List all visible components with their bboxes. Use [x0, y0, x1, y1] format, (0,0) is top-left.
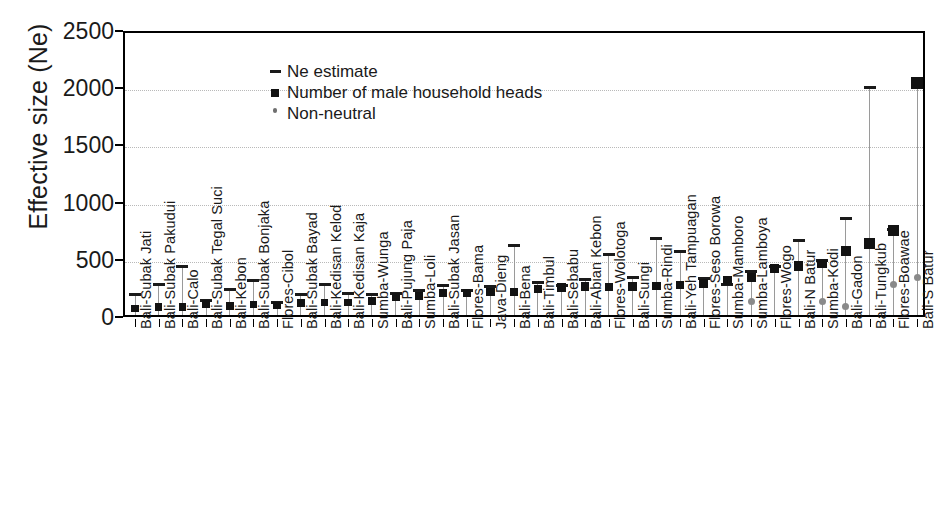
- y-tick-mark: [115, 144, 123, 146]
- x-tick-label: Bali-Yeh Tampuagan: [683, 194, 699, 329]
- whisker-line: [869, 87, 870, 315]
- x-tick-mark: [277, 319, 278, 327]
- x-tick-mark: [230, 319, 231, 327]
- whisker-line: [774, 267, 775, 315]
- x-tick-label: Bali-Sungi: [636, 262, 652, 329]
- whisker-line: [822, 260, 823, 315]
- legend-label: Ne estimate: [287, 61, 378, 82]
- gridline: [125, 205, 923, 206]
- x-tick-mark: [751, 319, 752, 327]
- x-tick-mark: [159, 319, 160, 327]
- x-tick-label: Bali-Subak Jasan: [446, 215, 462, 329]
- x-tick-label: Flores-Wolotoga: [612, 221, 628, 329]
- ne-estimate-marker: [176, 265, 188, 268]
- y-tick-mark: [115, 202, 123, 204]
- x-tick-label: Flores-Cibol: [280, 250, 296, 329]
- x-tick-mark: [846, 319, 847, 327]
- x-tick-mark: [727, 319, 728, 327]
- x-tick-mark: [562, 319, 563, 327]
- x-tick-mark: [372, 319, 373, 327]
- chart-figure: Effective size (Ne) 05001000150020002500…: [0, 0, 947, 528]
- y-tick-label: 2000: [22, 77, 114, 100]
- ne-estimate-marker: [840, 217, 852, 220]
- legend-label: Number of male household heads: [287, 82, 542, 103]
- x-tick-mark: [870, 319, 871, 327]
- male-heads-marker: [911, 77, 923, 89]
- y-tick-label: 500: [22, 248, 114, 271]
- x-tick-label: Bali-Subak Bonjaka: [256, 201, 272, 329]
- legend-item-male-heads: Number of male household heads: [265, 82, 542, 103]
- x-tick-label: Sumba-Lamboya: [754, 217, 770, 329]
- x-tick-mark: [325, 319, 326, 327]
- x-tick-label: Bali-N Batur: [802, 250, 818, 329]
- x-tick-mark: [680, 319, 681, 327]
- x-tick-mark: [467, 319, 468, 327]
- legend: Ne estimate Number of male household hea…: [265, 61, 542, 124]
- x-tick-label: Sumba-Mamboro: [730, 216, 746, 329]
- x-tick-mark: [799, 319, 800, 327]
- x-tick-mark: [633, 319, 634, 327]
- ne-estimate-marker: [864, 86, 876, 89]
- y-tick-label: 1500: [22, 134, 114, 157]
- x-tick-label: Bali-Subak Pakudui: [162, 201, 178, 329]
- x-tick-label: Bali-Sebabu: [565, 249, 581, 329]
- x-tick-label: Bali-Kebon: [233, 257, 249, 329]
- x-tick-mark: [396, 319, 397, 327]
- x-tick-label: Bali-Calo: [185, 269, 201, 329]
- x-tick-mark: [538, 319, 539, 327]
- x-tick-label: Flores-Seso Borowa: [707, 196, 723, 329]
- x-tick-label: Bali-Gadon: [849, 255, 865, 329]
- x-tick-label: Bali-Kedisan Kaja: [351, 213, 367, 329]
- x-tick-mark: [206, 319, 207, 327]
- x-tick-label: Flores-Bama: [470, 245, 486, 329]
- y-tick-mark: [115, 87, 123, 89]
- x-tick-label: Bali-Kedisan Kelod: [328, 205, 344, 329]
- x-tick-label: Flores-Wogo: [778, 245, 794, 329]
- x-tick-mark: [135, 319, 136, 327]
- x-tick-mark: [443, 319, 444, 327]
- legend-item-non-neutral: Non-neutral: [265, 103, 542, 124]
- x-tick-mark: [253, 319, 254, 327]
- x-tick-label: Java-Dieng: [493, 255, 509, 329]
- x-tick-label: Bali-Subak Jati: [138, 231, 154, 329]
- ne-estimate-marker: [508, 244, 520, 247]
- x-tick-label: Bali-Tungkub: [873, 243, 889, 329]
- x-tick-mark: [609, 319, 610, 327]
- x-tick-label: Flores-Boawae: [896, 230, 912, 329]
- y-tick-label: 1000: [22, 191, 114, 214]
- legend-item-ne-estimate: Ne estimate: [265, 61, 542, 82]
- x-tick-mark: [585, 319, 586, 327]
- whisker-line: [253, 281, 254, 315]
- square-icon: [265, 89, 285, 97]
- x-tick-mark: [419, 319, 420, 327]
- whisker-line: [798, 241, 799, 315]
- x-tick-label: Bali-Subak Tegal Suci: [209, 186, 225, 329]
- x-tick-label: Sumba-Wunga: [375, 231, 391, 329]
- x-tick-label: Bali-Timbul: [541, 256, 557, 329]
- y-tick-mark: [115, 316, 123, 318]
- y-tick-label: 2500: [22, 20, 114, 43]
- y-tick-mark: [115, 259, 123, 261]
- x-tick-label: Bali-S Batur: [920, 250, 936, 329]
- x-tick-label: Bali-Subak Bayad: [304, 212, 320, 329]
- x-tick-label: Bali-Pujung Paja: [399, 220, 415, 329]
- x-tick-label: Sumba-Rindi: [659, 244, 675, 329]
- whisker-line: [893, 230, 894, 315]
- x-tick-mark: [775, 319, 776, 327]
- x-tick-mark: [514, 319, 515, 327]
- x-tick-mark: [822, 319, 823, 327]
- x-tick-label: Bali-Bena: [517, 265, 533, 329]
- x-tick-mark: [490, 319, 491, 327]
- ne-estimate-marker: [793, 239, 805, 242]
- x-tick-label: Bali-Abian Kebon: [588, 215, 604, 329]
- x-tick-mark: [301, 319, 302, 327]
- x-tick-label: Sumba-Loli: [422, 255, 438, 329]
- x-tick-mark: [348, 319, 349, 327]
- whisker-line: [656, 238, 657, 315]
- y-tick-mark: [115, 30, 123, 32]
- whisker-line: [845, 219, 846, 315]
- dot-icon: [265, 108, 285, 119]
- legend-label: Non-neutral: [287, 103, 376, 124]
- gridline: [125, 147, 923, 148]
- x-tick-mark: [893, 319, 894, 327]
